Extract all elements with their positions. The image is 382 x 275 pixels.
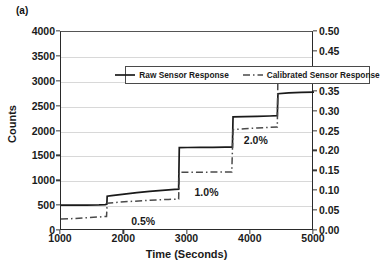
annotation-label: 2.0%	[244, 134, 268, 146]
legend-label-calibrated: Calibrated Sensor Response	[267, 70, 380, 80]
y-axis-right-tick-label: 0.20	[319, 144, 339, 156]
series-svg	[61, 32, 314, 231]
plot-area: 0.5%1.0%2.0%3.0% Raw Sensor Response Cal…	[60, 31, 313, 230]
y-axis-left-tick-label: 3500	[32, 50, 55, 62]
figure-panel-a: (a) 05001000150020002500300035004000 0.0…	[0, 0, 382, 275]
series-line-raw	[61, 92, 314, 205]
panel-label: (a)	[16, 5, 28, 16]
y-axis-right-tick-label: 0.50	[319, 25, 339, 37]
x-axis-tick-label: 1000	[48, 232, 71, 244]
x-axis-tick-label: 5000	[301, 232, 324, 244]
y-axis-right-tick-label: 0.05	[319, 204, 339, 216]
y-axis-right-labels: 0.000.050.100.150.200.250.300.350.400.45…	[319, 31, 363, 230]
legend-item-raw: Raw Sensor Response	[115, 70, 228, 80]
legend-item-calibrated: Calibrated Sensor Response	[243, 70, 380, 80]
x-axis-labels: 10002000300040005000	[60, 232, 313, 246]
x-axis-tick-label: 3000	[175, 232, 198, 244]
y-axis-left-tick-label: 2500	[32, 100, 55, 112]
chart-legend: Raw Sensor Response Calibrated Sensor Re…	[125, 66, 370, 84]
annotation-label: 1.0%	[195, 186, 219, 198]
y-axis-left-tick-label: 2000	[32, 125, 55, 137]
x-axis-title: Time (Seconds)	[60, 248, 313, 260]
y-axis-left-title: Counts	[6, 84, 18, 164]
y-axis-right-tick-label: 0.35	[319, 85, 339, 97]
y-axis-right-tick-label: 0.15	[319, 164, 339, 176]
y-axis-right-tick-label: 0.45	[319, 45, 339, 57]
legend-label-raw: Raw Sensor Response	[139, 70, 228, 80]
x-axis-tick-label: 2000	[112, 232, 135, 244]
y-axis-right-tick-label: 0.10	[319, 184, 339, 196]
y-axis-right-tick-label: 0.25	[319, 125, 339, 137]
legend-line-dashed-icon	[243, 71, 263, 79]
y-axis-left-tick-label: 1500	[32, 149, 55, 161]
y-axis-left-tick-label: 4000	[32, 25, 55, 37]
legend-line-solid-icon	[115, 71, 135, 79]
data-curves	[61, 32, 312, 229]
y-axis-left-tick-label: 3000	[32, 75, 55, 87]
y-axis-left-tick-label: 1000	[32, 174, 55, 186]
y-axis-right-tick-label: 0.30	[319, 105, 339, 117]
series-line-calibrated	[61, 69, 314, 219]
y-axis-left-tick-label: 500	[37, 199, 55, 211]
x-axis-tick-label: 4000	[238, 232, 261, 244]
annotation-label: 0.5%	[131, 215, 155, 227]
